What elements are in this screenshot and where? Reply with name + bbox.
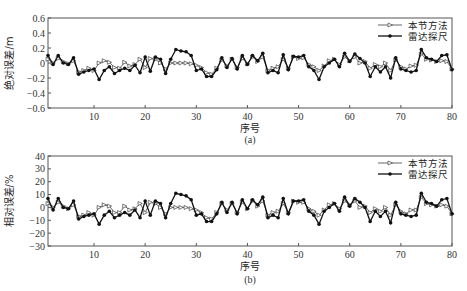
star-marker bbox=[123, 211, 127, 215]
star-marker bbox=[235, 212, 239, 216]
triangle-marker bbox=[384, 61, 388, 65]
triangle-marker bbox=[174, 61, 178, 65]
plot-frame bbox=[48, 156, 452, 246]
star-marker bbox=[108, 65, 112, 69]
star-marker bbox=[358, 57, 362, 61]
star-marker bbox=[271, 69, 275, 73]
triangle-marker bbox=[174, 205, 178, 209]
star-marker bbox=[67, 207, 71, 211]
star-marker bbox=[143, 199, 147, 203]
panel-label: (a) bbox=[244, 134, 255, 146]
triangle-marker bbox=[179, 205, 183, 209]
triangle-marker bbox=[128, 208, 132, 212]
star-marker bbox=[404, 69, 408, 73]
triangle-marker bbox=[102, 59, 106, 63]
x-tick-label: 70 bbox=[396, 249, 406, 260]
y-tick-label: −20 bbox=[29, 228, 45, 239]
star-marker bbox=[353, 52, 357, 56]
star-marker bbox=[302, 198, 306, 202]
x-tick-label: 10 bbox=[89, 111, 99, 122]
star-marker bbox=[287, 212, 291, 216]
star-marker bbox=[169, 57, 173, 61]
star-marker bbox=[241, 54, 245, 58]
star-marker bbox=[56, 54, 60, 58]
triangle-marker bbox=[384, 205, 388, 209]
chart-figure: 0.60.40.20−0.2−0.4−0.6 1020304050607080 … bbox=[0, 0, 467, 291]
star-marker bbox=[113, 216, 117, 220]
star-marker bbox=[292, 54, 296, 58]
star-marker bbox=[297, 199, 301, 203]
star-marker bbox=[420, 48, 424, 52]
star-marker bbox=[174, 48, 178, 52]
star-marker bbox=[174, 191, 178, 195]
star-marker bbox=[435, 60, 439, 64]
star-marker bbox=[440, 54, 444, 58]
triangle-marker bbox=[179, 61, 183, 65]
star-marker bbox=[430, 202, 434, 206]
star-marker bbox=[338, 209, 342, 213]
triangle-marker bbox=[440, 59, 444, 63]
star-marker bbox=[343, 195, 347, 199]
panel-a-absolute-error-chart: 0.60.40.20−0.2−0.4−0.6 1020304050607080 … bbox=[3, 13, 457, 147]
star-marker bbox=[425, 200, 429, 204]
star-marker bbox=[363, 61, 367, 65]
star-marker bbox=[215, 68, 219, 72]
triangle-marker bbox=[143, 211, 147, 215]
star-marker bbox=[414, 213, 418, 217]
star-marker bbox=[297, 55, 301, 59]
star-marker bbox=[409, 215, 413, 219]
x-tick-label: 60 bbox=[345, 249, 355, 260]
star-marker bbox=[246, 207, 250, 211]
star-marker bbox=[164, 72, 168, 76]
star-marker bbox=[379, 215, 383, 219]
star-marker bbox=[389, 221, 393, 225]
star-marker bbox=[430, 57, 434, 61]
x-axis-label: 序号 bbox=[240, 260, 260, 272]
star-marker bbox=[373, 209, 377, 213]
star-marker bbox=[348, 60, 352, 64]
star-marker bbox=[435, 204, 439, 208]
star-marker bbox=[46, 197, 50, 201]
star-marker bbox=[189, 198, 193, 202]
star-marker bbox=[281, 53, 285, 57]
star-marker bbox=[67, 63, 71, 67]
star-marker bbox=[261, 51, 265, 55]
x-tick-label: 40 bbox=[242, 249, 252, 260]
triangle-marker bbox=[148, 200, 152, 204]
star-marker bbox=[200, 212, 204, 216]
x-tick-label: 60 bbox=[345, 111, 355, 122]
star-marker bbox=[266, 71, 270, 75]
star-marker bbox=[322, 65, 326, 69]
star-marker bbox=[62, 206, 66, 210]
star-marker bbox=[338, 65, 342, 69]
x-tick-label: 20 bbox=[140, 111, 150, 122]
star-marker bbox=[358, 200, 362, 204]
triangle-marker bbox=[358, 205, 362, 209]
star-marker bbox=[327, 206, 331, 210]
star-marker bbox=[445, 197, 449, 201]
star-marker bbox=[179, 193, 183, 197]
star-marker bbox=[246, 63, 250, 67]
star-marker bbox=[159, 202, 163, 206]
y-axis-label: 相对误差/% bbox=[3, 175, 15, 228]
star-marker bbox=[51, 63, 55, 67]
triangle-marker bbox=[112, 66, 116, 70]
y-tick-label: 0 bbox=[40, 202, 45, 213]
triangle-marker bbox=[97, 61, 101, 65]
star-marker bbox=[118, 213, 122, 217]
star-marker bbox=[210, 220, 214, 224]
star-marker bbox=[399, 212, 403, 216]
star-marker bbox=[189, 54, 193, 58]
y-tick-label: 30 bbox=[35, 163, 45, 174]
star-marker bbox=[440, 198, 444, 202]
triangle-marker bbox=[138, 57, 142, 61]
star-marker bbox=[322, 209, 326, 213]
star-marker bbox=[169, 202, 173, 206]
star-marker bbox=[404, 213, 408, 217]
triangle-marker bbox=[184, 61, 188, 65]
star-marker bbox=[225, 211, 229, 215]
star-marker bbox=[384, 65, 388, 69]
star-marker bbox=[184, 50, 188, 54]
star-marker bbox=[133, 208, 137, 212]
star-marker bbox=[394, 200, 398, 204]
